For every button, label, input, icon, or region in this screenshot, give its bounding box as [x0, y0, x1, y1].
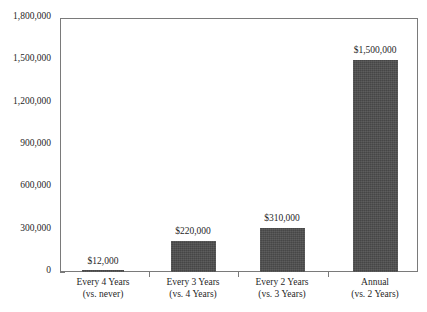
x-axis-category-line1: Every 3 Years [166, 277, 219, 287]
bar-chart: 0 300,000 600,000 900,000 1,200,000 1,50… [0, 0, 427, 312]
x-axis-category-line2: (vs. never) [58, 289, 148, 301]
y-axis-tick-label: 1,200,000 [13, 96, 51, 106]
x-axis-category-line1: Every 2 Years [255, 277, 308, 287]
x-axis-category-label: Every 2 Years (vs. 3 Years) [237, 277, 327, 300]
y-axis-tick-label: 600,000 [20, 180, 51, 190]
bar [353, 60, 398, 272]
bar-value-label: $310,000 [242, 213, 322, 224]
x-axis-category-line1: Every 4 Years [76, 277, 129, 287]
y-axis-tick-label: 300,000 [20, 223, 51, 233]
x-axis-category-line2: (vs. 2 Years) [330, 289, 420, 301]
bar-value-label: $1,500,000 [331, 45, 419, 56]
bar [82, 270, 124, 272]
y-axis-tick-label: 900,000 [20, 138, 51, 148]
bar [171, 241, 216, 272]
y-axis-tick-label: 0 [46, 265, 51, 275]
x-axis-category-label: Every 3 Years (vs. 4 Years) [148, 277, 238, 300]
bar [260, 228, 305, 272]
y-axis-tick-label: 1,500,000 [13, 53, 51, 63]
y-axis-tick-label: 1,800,000 [13, 11, 51, 21]
bar-value-label: $220,000 [153, 226, 233, 237]
y-axis-tick-mark [60, 272, 65, 273]
x-axis-tick-mark [328, 272, 329, 277]
x-axis-category-label: Annual (vs. 2 Years) [330, 277, 420, 300]
x-axis-category-line2: (vs. 3 Years) [237, 289, 327, 301]
x-axis-category-label: Every 4 Years (vs. never) [58, 277, 148, 300]
x-axis-category-line2: (vs. 4 Years) [148, 289, 238, 301]
bar-value-label: $12,000 [63, 256, 143, 267]
x-axis-category-line1: Annual [361, 277, 389, 287]
